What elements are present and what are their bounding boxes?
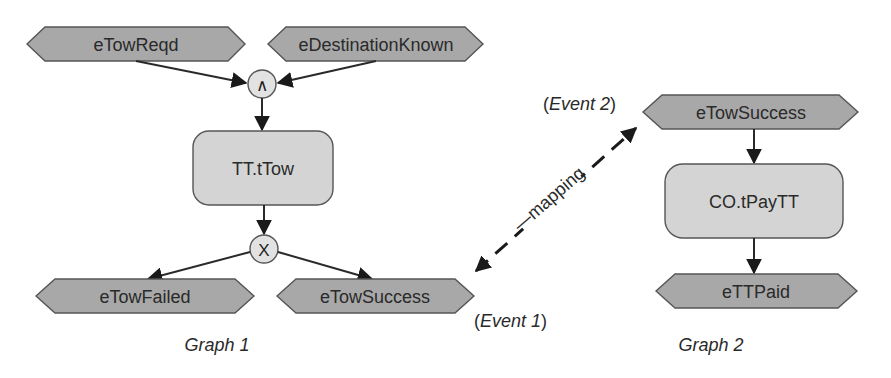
event-1-annotation: (Event 1) — [474, 311, 547, 331]
event-label: eDestinationKnown — [298, 35, 453, 55]
event-label: eTowReqd — [93, 35, 178, 55]
event-label: eTowSuccess — [320, 287, 430, 307]
and-gate[interactable]: ∧ — [248, 70, 276, 98]
event-node-edestinationknown[interactable]: eDestinationKnown — [268, 27, 483, 61]
task-node-co-tpaytt[interactable]: CO.tPayTT — [665, 164, 843, 238]
diagram-canvas: eTowReqd eDestinationKnown ∧ TT.tTow X — [0, 0, 891, 378]
event-node-etowsuccess-graph2[interactable]: eTowSuccess — [643, 95, 858, 129]
task-node-tt-ttow[interactable]: TT.tTow — [193, 131, 333, 205]
mapping-connector[interactable]: —mapping — [476, 128, 636, 271]
edge-edestinationknown-to-and — [278, 61, 376, 83]
task-label: TT.tTow — [232, 159, 295, 179]
mapping-label: —mapping — [510, 163, 589, 235]
graph-1: eTowReqd eDestinationKnown ∧ TT.tTow X — [27, 27, 547, 355]
and-symbol-icon: ∧ — [256, 76, 268, 95]
task-label: CO.tPayTT — [709, 192, 799, 212]
graph-2: (Event 2) eTowSuccess CO.tPayTT eTTPaid … — [543, 94, 858, 355]
event-node-ettpaid[interactable]: eTTPaid — [656, 274, 857, 308]
event-label: eTTPaid — [722, 282, 790, 302]
event-2-annotation: (Event 2) — [543, 94, 616, 114]
xor-symbol-icon: X — [258, 241, 269, 260]
event-label: eTowFailed — [99, 287, 190, 307]
xor-gate[interactable]: X — [250, 235, 278, 263]
edge-etowreqd-to-and — [136, 61, 246, 83]
event-node-etowsuccess-graph1[interactable]: eTowSuccess — [277, 279, 474, 313]
graph-1-caption: Graph 1 — [184, 335, 249, 355]
event-node-etowfailed[interactable]: eTowFailed — [36, 279, 254, 313]
event-label: eTowSuccess — [696, 103, 806, 123]
edge-xor-to-etowsuccess — [278, 252, 372, 279]
event-node-etowreqd[interactable]: eTowReqd — [27, 27, 245, 61]
graph-2-caption: Graph 2 — [678, 335, 743, 355]
edge-xor-to-etowfailed — [148, 252, 250, 279]
